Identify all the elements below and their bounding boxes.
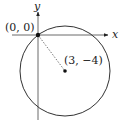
origin-label: (0, 0)	[5, 21, 35, 34]
center-point	[63, 69, 67, 73]
x-axis-label: x	[112, 28, 119, 41]
circle-diagram: x y (0, 0) (3, −4)	[0, 0, 126, 126]
radius-segment	[38, 35, 65, 71]
origin-point	[36, 33, 40, 37]
y-axis-label: y	[33, 0, 41, 13]
center-label: (3, −4)	[64, 54, 103, 67]
